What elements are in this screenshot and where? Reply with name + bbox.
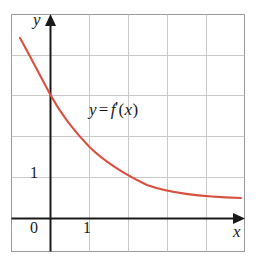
curve-equation-label: y=f′(x) xyxy=(89,99,138,120)
y-axis-label: y xyxy=(33,10,41,30)
plot-canvas xyxy=(0,0,259,265)
graph-figure: y x 0 1 1 y=f′(x) xyxy=(0,0,259,265)
y-tick-label-1: 1 xyxy=(30,164,38,182)
equation-close-paren: ) xyxy=(132,100,138,119)
x-tick-label-1: 1 xyxy=(83,219,91,237)
origin-tick-label: 0 xyxy=(30,219,38,237)
x-axis-label: x xyxy=(233,222,241,242)
equation-lhs: y xyxy=(89,100,97,119)
equation-equals-sign: = xyxy=(97,100,111,119)
